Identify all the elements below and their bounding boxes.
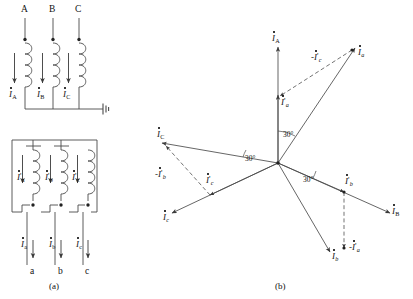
node-Ipb-tip — [342, 190, 345, 193]
caption-a: (a) — [49, 282, 59, 291]
coil-C — [79, 43, 86, 87]
current-label-IB: IB — [37, 90, 44, 100]
phasor-neg-Ipb — [166, 146, 210, 195]
current-label-Ic-line: Ic — [76, 240, 82, 250]
terminal-label-B: B — [49, 5, 55, 15]
polarity-dot-A — [23, 38, 26, 41]
coil-a-sec — [33, 150, 40, 194]
current-label-IA: IA — [9, 90, 17, 100]
phasor-origin — [276, 161, 280, 165]
polarity-dot-c — [86, 203, 89, 206]
angle-label-right: 30° — [303, 176, 314, 184]
phasor-dashed — [166, 50, 352, 248]
coil-b-sec — [61, 150, 68, 194]
phasor-label-Ipc: I'c — [206, 176, 213, 186]
phasor-label-Ia: Ia — [358, 48, 364, 58]
phasor-label-Ipa: I'a — [281, 98, 289, 108]
terminal-label-b: b — [58, 267, 63, 277]
phasor-label-IC: IC — [157, 130, 164, 140]
phasor-label-IB: IB — [392, 207, 399, 217]
terminal-label-c: c — [85, 267, 89, 277]
coil-c-sec — [88, 150, 95, 194]
polarity-dot-C — [77, 38, 80, 41]
ground-icon — [103, 104, 109, 115]
coil-tails-sec — [33, 194, 88, 201]
phasor-label-Ib: Ib — [332, 252, 338, 262]
figure-canvas — [0, 0, 413, 299]
phasor-label-IA: IA — [272, 34, 280, 44]
phasor-label-Ipb: I'b — [345, 177, 353, 187]
coil-A — [25, 43, 32, 87]
current-label-Ipb: I'b — [45, 173, 53, 183]
polarity-dot-B — [51, 38, 54, 41]
phasor-label-neg-Ipa: -I'a — [349, 243, 360, 253]
current-label-Ia-line: Ia — [21, 240, 27, 250]
angle-label-left: 30° — [245, 155, 256, 163]
delta-right-return — [69, 205, 85, 212]
phasor-label-neg-Ipb: -I'b — [155, 170, 166, 180]
delta-outer-bus — [12, 140, 97, 212]
terminal-label-a: a — [30, 267, 34, 277]
caption-b: (b) — [275, 282, 286, 291]
polarity-dot-b — [59, 203, 62, 206]
terminal-label-C: C — [75, 5, 81, 15]
terminal-label-A: A — [21, 5, 28, 15]
phasor-diagram — [162, 47, 390, 252]
phasor-IC — [162, 143, 278, 163]
delta-left-return — [12, 205, 30, 212]
phasor-Ipc — [210, 163, 278, 195]
current-label-Ipa: I'a — [17, 173, 24, 183]
polarity-dot-a — [31, 203, 34, 206]
phasor-label-Ic: Ic — [163, 213, 169, 223]
node-Ia-tip — [350, 48, 353, 51]
delta-right-bus — [91, 158, 97, 212]
current-label-Ipc: I'c — [72, 173, 79, 183]
current-label-Ib-line: Ib — [49, 240, 55, 250]
current-label-IC: IC — [63, 90, 70, 100]
node-Ib-tip — [342, 246, 345, 249]
angle-label-top: 30° — [283, 131, 294, 139]
coil-B — [53, 43, 60, 87]
primary-current-arrows — [15, 53, 69, 83]
delta-mid-return — [41, 205, 58, 212]
phasor-label-neg-Ipc: -I'c — [311, 53, 321, 63]
phasor-Ia — [278, 48, 355, 163]
figure-root: A B C IA IB IC I'a I'b I'c Ia Ib Ic a b … — [0, 0, 413, 299]
delta-jumper-stub — [33, 146, 61, 150]
